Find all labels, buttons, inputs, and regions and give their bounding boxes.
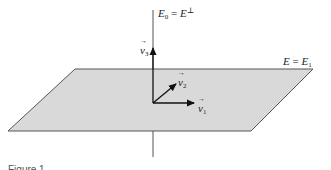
figure-caption: Figure 1 [8, 164, 45, 170]
axis-label-rhs: E [180, 7, 187, 19]
vector-v2-sub: 2 [183, 82, 187, 90]
axis-label: E0 = E⊥ [158, 7, 194, 21]
plane-label-eq: = [290, 55, 302, 67]
plane-label-rhs-sub: 1 [308, 61, 312, 69]
vector-v1-label: v1 [198, 103, 206, 116]
vector-v3-sub: 3 [145, 50, 149, 58]
axis-label-rhs-sup: ⊥ [187, 6, 195, 15]
plane-label-lhs: E [283, 55, 290, 67]
plane-label: E = E1 [283, 56, 312, 69]
plane-E [8, 69, 313, 131]
vector-v1-sub: 1 [203, 108, 207, 116]
diagram-canvas [0, 0, 331, 170]
vector-v3-label: v3 [140, 45, 148, 58]
vector-v3-name: v [140, 45, 145, 56]
vector-v1-name: v [198, 103, 203, 114]
vector-v2-name: v [178, 77, 183, 88]
axis-label-lhs: E [158, 7, 165, 19]
vector-v2-label: v2 [178, 77, 186, 90]
axis-label-eq: = [168, 7, 180, 19]
